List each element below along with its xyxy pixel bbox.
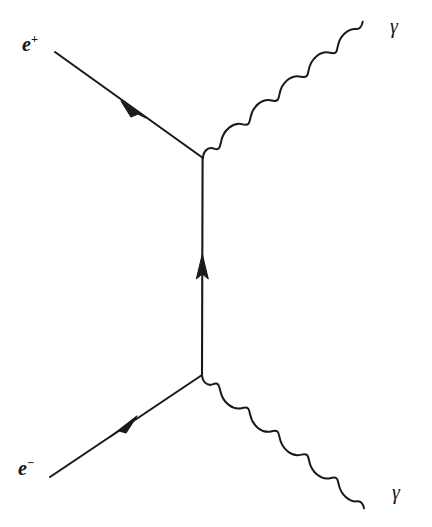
photon-top-line <box>186 22 380 158</box>
feynman-diagram: e+ e− γ γ <box>0 0 432 527</box>
photon-bottom-label: γ <box>392 482 400 502</box>
positron-label: e+ <box>22 33 38 54</box>
photon-top-label: γ <box>390 16 398 36</box>
electron-arrowhead-icon <box>110 416 137 437</box>
positron-line <box>55 52 203 158</box>
photon-top-stroke <box>186 22 380 158</box>
positron-line-stroke <box>55 52 203 158</box>
electron-symbol: e <box>18 457 27 479</box>
feynman-diagram-canvas <box>0 0 432 527</box>
positron-charge-superscript: + <box>31 32 38 46</box>
photon-bottom-stroke <box>187 375 379 508</box>
electron-charge-superscript: − <box>27 456 34 470</box>
positron-symbol: e <box>22 33 31 55</box>
electron-label: e− <box>18 457 34 478</box>
fermion-propagator <box>196 158 208 375</box>
electron-line <box>50 375 202 477</box>
positron-arrowhead-icon <box>121 101 146 118</box>
photon-bottom-line <box>187 375 379 508</box>
